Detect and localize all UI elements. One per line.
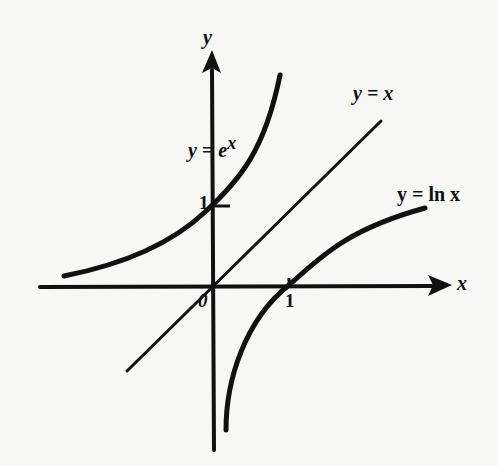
- y-axis: [212, 70, 214, 450]
- y-axis-label: y: [203, 26, 212, 49]
- log-label: y = ln x: [397, 183, 460, 206]
- exp-label-exponent: x: [227, 133, 236, 153]
- exp-curve: [64, 75, 280, 276]
- y-tick-label: 1: [199, 192, 209, 214]
- graph-svg: [0, 0, 498, 466]
- x-axis: [40, 286, 432, 287]
- x-tick-label: 1: [285, 290, 295, 312]
- exp-label-eq: =: [202, 139, 213, 161]
- origin-label: 0: [198, 290, 208, 312]
- diagram-canvas: y x 0 1 1 y = ex y = x y = ln x: [0, 0, 498, 466]
- identity-line: [127, 121, 381, 371]
- exp-curve-label: y = ex: [188, 133, 236, 162]
- identity-label: y = x: [353, 82, 393, 105]
- x-axis-label: x: [457, 272, 467, 295]
- log-curve: [226, 208, 425, 430]
- exp-label-y: y: [188, 139, 197, 161]
- exp-label-base: e: [218, 139, 227, 161]
